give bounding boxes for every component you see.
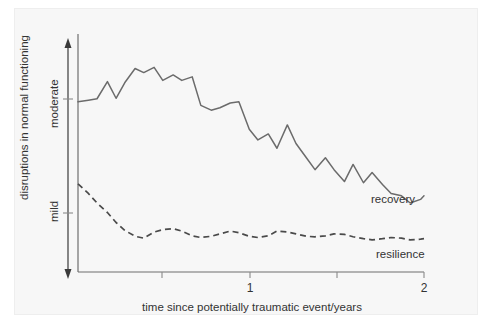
arrow-head-down-icon bbox=[65, 269, 72, 279]
arrow-head-up-icon bbox=[65, 38, 72, 48]
series-line-recovery bbox=[78, 67, 424, 203]
y-axis-title: disruptions in normal functioning bbox=[18, 35, 30, 200]
series-label-recovery: recovery bbox=[371, 193, 415, 205]
line-chart: disruptions in normal functioning modera… bbox=[0, 0, 492, 333]
x-tick-label-2: 2 bbox=[421, 281, 428, 295]
x-tick-label-1: 1 bbox=[247, 281, 254, 295]
series-label-resilience: resilience bbox=[376, 248, 425, 260]
y-range-arrow bbox=[63, 38, 73, 279]
figure-root: disruptions in normal functioning modera… bbox=[0, 0, 492, 333]
plot-axes bbox=[78, 34, 424, 278]
y-label-moderate: moderate bbox=[48, 79, 60, 128]
y-label-mild: mild bbox=[48, 201, 60, 222]
x-axis-title: time since potentially traumatic event/y… bbox=[142, 301, 362, 313]
